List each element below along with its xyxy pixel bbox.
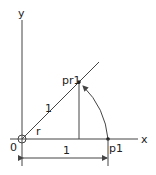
rotated-line bbox=[22, 62, 99, 139]
rotation-arc bbox=[83, 86, 108, 139]
angle-label: r bbox=[36, 125, 41, 138]
origin-label: 0 bbox=[10, 141, 17, 154]
dimension-label: 1 bbox=[63, 144, 70, 157]
rotation-diagram: y x 0 pr1 p1 1 r 1 bbox=[0, 0, 156, 175]
x-axis-label: x bbox=[141, 133, 148, 146]
p1-label: p1 bbox=[109, 142, 123, 155]
pr1-label: pr1 bbox=[62, 74, 81, 87]
diagram-canvas: y x 0 pr1 p1 1 r 1 bbox=[0, 0, 156, 175]
y-axis-label: y bbox=[18, 7, 25, 20]
radius-length-label: 1 bbox=[45, 102, 52, 115]
